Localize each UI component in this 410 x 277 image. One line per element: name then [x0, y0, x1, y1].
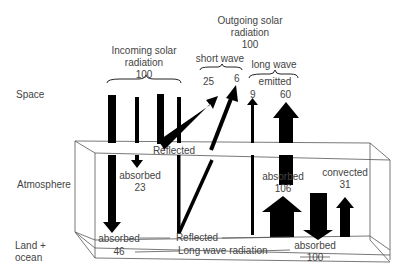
long-wave-value-9: 9: [250, 89, 256, 100]
zone-label-space: Space: [16, 89, 44, 100]
short-wave-value-25: 25: [203, 76, 214, 87]
reflected-surface-label: Reflected: [172, 232, 222, 243]
outgoing-title-1: Outgoing solar: [206, 15, 294, 26]
zone-label-ocean: ocean: [15, 252, 42, 263]
emitted-label: emitted: [255, 76, 295, 87]
absorbed-atm-label: absorbed: [115, 170, 165, 181]
long-wave-value-60: 60: [280, 89, 291, 100]
long-wave-label: long wave: [248, 59, 300, 70]
zone-label-land: Land +: [15, 240, 46, 251]
short-wave-brace: [200, 64, 242, 70]
absorbed-back-label: absorbed: [290, 240, 340, 251]
convected-label: convected: [318, 167, 372, 178]
outgoing-title-2: radiation: [206, 27, 294, 38]
surface-arrows: [262, 193, 354, 240]
absorbed-back-value: 100: [290, 252, 340, 263]
absorbed-lw-label: absorbed: [258, 171, 308, 182]
absorbed-lw-value: 106: [258, 183, 308, 194]
absorbed-atm-value: 23: [115, 182, 165, 193]
zone-label-atmosphere: Atmosphere: [17, 179, 71, 190]
absorbed-surface-value: 46: [94, 246, 144, 257]
incoming-value: 100: [100, 69, 188, 80]
long-wave-radiation-label: Long wave radiation: [178, 245, 258, 256]
short-wave-value-6: 6: [234, 73, 240, 84]
incoming-title-1: Incoming solar: [100, 45, 188, 56]
reflected-arrows: [158, 85, 238, 233]
incoming-title-2: radiation: [100, 57, 188, 68]
convected-value: 31: [318, 179, 372, 190]
energy-balance-diagram: Space Atmosphere Land + ocean Incoming s…: [0, 0, 410, 277]
outgoing-value: 100: [206, 39, 294, 50]
reflected-top-label: Reflected: [144, 145, 204, 156]
incoming-arrows: [103, 94, 181, 234]
short-wave-label: short wave: [195, 53, 245, 64]
absorbed-surface-label: absorbed: [94, 233, 144, 244]
